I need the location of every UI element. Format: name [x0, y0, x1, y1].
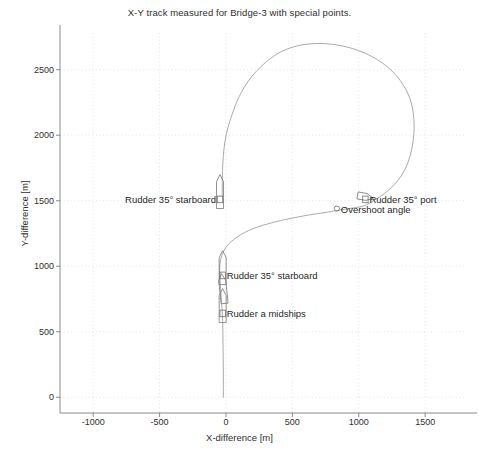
y-axis-label: Y-difference [m] — [19, 144, 30, 284]
y-tick-label: 2500 — [8, 65, 54, 75]
x-axis-label: X-difference [m] — [0, 432, 479, 443]
special-point-label: Rudder 35° port — [369, 194, 436, 205]
special-point-markers — [217, 175, 374, 323]
gridlines — [60, 33, 465, 413]
special-point-label: Rudder 35° starboard — [125, 194, 216, 205]
x-tick-label: 0 — [223, 417, 228, 427]
track-line — [220, 43, 415, 397]
axis-lines — [60, 25, 477, 413]
y-tick-label: 500 — [8, 327, 54, 337]
figure-canvas: X-Y track measured for Bridge-3 with spe… — [0, 0, 479, 457]
tick-marks — [56, 70, 425, 417]
x-tick-label: 500 — [285, 417, 300, 427]
x-tick-label: 1000 — [349, 417, 369, 427]
special-point-label: Rudder 35° starboard — [227, 270, 318, 281]
x-tick-label: 1500 — [415, 417, 435, 427]
y-tick-label: 1000 — [8, 261, 54, 271]
plot-area — [0, 0, 479, 457]
y-tick-label: 0 — [8, 392, 54, 402]
y-tick-label: 1500 — [8, 196, 54, 206]
y-tick-label: 2000 — [8, 130, 54, 140]
x-tick-label: -1000 — [82, 417, 105, 427]
x-tick-label: -500 — [151, 417, 169, 427]
special-point-label: Rudder a midships — [227, 308, 306, 319]
